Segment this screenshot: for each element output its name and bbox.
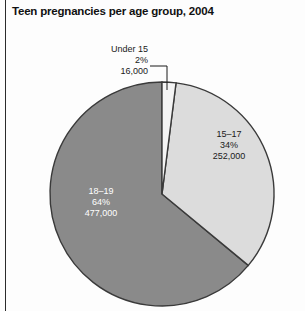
pie-label-18-19-value: 477,000 — [62, 208, 140, 219]
pie-label-15-17-percent: 34% — [192, 140, 266, 151]
pie-label-15-17-value: 252,000 — [192, 151, 266, 162]
pie-label-under-15-percent: 2% — [86, 55, 148, 66]
pie-label-under-15-name: Under 15 — [86, 44, 148, 55]
pie-label-18-19: 18–19 64% 477,000 — [62, 186, 140, 219]
pie-label-under-15: Under 15 2% 16,000 — [86, 44, 148, 77]
figure-container: Teen pregnancies per age group, 2004 Und… — [0, 0, 305, 311]
pie-label-under-15-value: 16,000 — [86, 66, 148, 77]
pie-label-18-19-name: 18–19 — [62, 186, 140, 197]
pie-label-15-17-name: 15–17 — [192, 129, 266, 140]
pie-label-18-19-percent: 64% — [62, 197, 140, 208]
pie-label-15-17: 15–17 34% 252,000 — [192, 129, 266, 162]
